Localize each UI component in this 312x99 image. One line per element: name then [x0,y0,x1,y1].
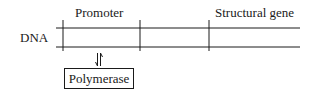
promoter-label: Promoter [75,6,123,19]
structural-gene-label: Structural gene [215,6,294,19]
reversible-binding-arrows-icon [96,53,103,66]
polymerase-label: Polymerase [69,71,130,87]
dna-diagram: DNA Promoter Structural gene Polymerase [0,0,312,99]
dna-label: DNA [20,31,48,44]
polymerase-box: Polymerase [64,68,134,89]
